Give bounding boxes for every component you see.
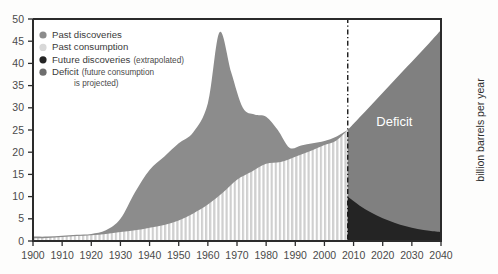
x-axis-tick-label: 1930 bbox=[109, 249, 133, 261]
x-axis-tick-label: 1960 bbox=[196, 249, 220, 261]
x-axis-tick-label: 1950 bbox=[167, 249, 191, 261]
y-axis-tick-label: 10 bbox=[12, 190, 24, 202]
legend-note2-4: is projected) bbox=[74, 79, 119, 88]
chart-canvas: 05101520253035404550 1900191019201930194… bbox=[0, 0, 498, 274]
x-axis-tick-label: 1980 bbox=[254, 249, 278, 261]
legend-marker-2 bbox=[39, 44, 46, 51]
y-axis-tick-label: 25 bbox=[12, 124, 24, 136]
y-axis-tick-label: 45 bbox=[12, 35, 24, 47]
legend-marker-4 bbox=[39, 69, 46, 76]
x-axis-tick-labels: 1900191019201930194019501960197019801990… bbox=[21, 249, 453, 261]
legend-label-3: Future discoveries(extrapolated) bbox=[52, 54, 184, 65]
y-axis-tick-label: 20 bbox=[12, 146, 24, 158]
y-axis-tick-label: 0 bbox=[18, 235, 24, 247]
x-axis-tick-label: 1910 bbox=[50, 249, 74, 261]
legend-marker-3 bbox=[39, 56, 46, 63]
oil-discovery-consumption-chart: 05101520253035404550 1900191019201930194… bbox=[0, 0, 498, 274]
y-axis-tick-label: 40 bbox=[12, 57, 24, 69]
x-axis-tick-label: 2030 bbox=[400, 249, 424, 261]
legend-label-4: Deficit(future consumption bbox=[52, 66, 154, 77]
x-axis-tick-label: 1920 bbox=[80, 249, 104, 261]
legend-note-3: (extrapolated) bbox=[133, 56, 184, 65]
y-axis-tick-label: 35 bbox=[12, 79, 24, 91]
x-axis-tick-label: 1970 bbox=[225, 249, 249, 261]
x-axis-tick-label: 1990 bbox=[284, 249, 308, 261]
x-axis-tick-label: 2040 bbox=[429, 249, 453, 261]
legend-label-1: Past discoveries bbox=[52, 29, 122, 40]
x-axis-tick-label: 2020 bbox=[371, 249, 395, 261]
legend-note-4: (future consumption bbox=[82, 68, 155, 77]
x-axis-tick-label: 1900 bbox=[21, 249, 45, 261]
legend-label-2: Past consumption bbox=[52, 41, 128, 52]
legend-marker-1 bbox=[39, 31, 46, 38]
deficit-annotation-label: Deficit bbox=[376, 114, 413, 129]
x-axis-tick-label: 2010 bbox=[342, 249, 366, 261]
y-axis-tick-label: 30 bbox=[12, 101, 24, 113]
y-axis-tick-label: 15 bbox=[12, 168, 24, 180]
x-axis-tick-label: 2000 bbox=[313, 249, 337, 261]
y-axis-tick-labels: 05101520253035404550 bbox=[12, 13, 24, 247]
y-axis-tick-label: 50 bbox=[12, 13, 24, 25]
y-axis-title: billion barrels per year bbox=[474, 78, 486, 182]
y-axis-tick-label: 5 bbox=[18, 212, 24, 224]
x-axis-tick-label: 1940 bbox=[138, 249, 162, 261]
